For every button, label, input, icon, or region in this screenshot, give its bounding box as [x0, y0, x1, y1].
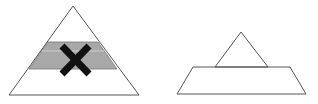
left-pyramid: [9, 6, 139, 95]
right-shape: [177, 32, 306, 94]
trapezoid-base: [177, 67, 306, 94]
diagram-canvas: [0, 0, 318, 104]
small-top-triangle: [215, 32, 268, 67]
